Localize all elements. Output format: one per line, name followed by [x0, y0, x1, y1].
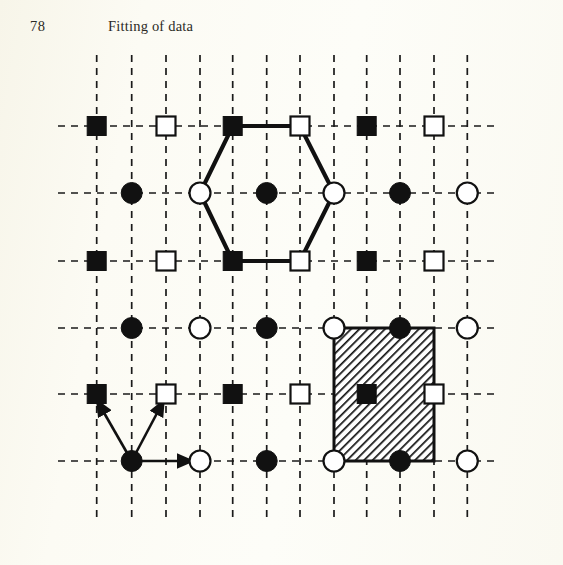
open-circle-r2c4: [190, 183, 211, 204]
filled-circle-r4c10: [390, 318, 411, 339]
unit-cell-center-marker: [358, 386, 375, 403]
filled-circle-r2c10: [390, 183, 411, 204]
open-circle-r4c8: [324, 318, 345, 339]
open-circle-r2c12: [457, 183, 478, 204]
open-circle-r6c4: [190, 451, 211, 472]
open-square-r1c3: [157, 117, 176, 136]
unit-cell-center-square: [358, 386, 375, 403]
filled-square-r3c1: [87, 252, 106, 271]
basis-vector-arrows: [97, 400, 193, 461]
open-square-r1c7: [291, 117, 310, 136]
filled-circle-r2c2: [121, 183, 142, 204]
filled-circle-r6c6: [256, 451, 277, 472]
open-square-r1c11: [425, 117, 444, 136]
filled-circle-r4c2: [121, 318, 142, 339]
open-circle-r6c8: [324, 451, 345, 472]
open-square-r5c7: [291, 385, 310, 404]
open-circle-r6c12: [457, 451, 478, 472]
filled-square-r1c1: [87, 117, 106, 136]
open-square-r3c7: [291, 252, 310, 271]
unit-cell-shaded: [334, 328, 434, 461]
lattice-figure-svg: [0, 0, 563, 565]
open-square-r3c11: [425, 252, 444, 271]
filled-circle-r6c10: [390, 451, 411, 472]
open-circle-r2c8: [324, 183, 345, 204]
open-circle-r4c4: [190, 318, 211, 339]
open-square-r5c3: [157, 385, 176, 404]
filled-square-r1c5: [223, 117, 242, 136]
open-square-r3c3: [157, 252, 176, 271]
filled-square-r5c5: [223, 385, 242, 404]
unit-cell-rect: [334, 328, 434, 461]
filled-circle-r2c6: [256, 183, 277, 204]
lattice-figure: [0, 0, 563, 565]
filled-square-r5c1: [87, 385, 106, 404]
filled-circle-r6c2: [121, 451, 142, 472]
filled-square-r3c5: [223, 252, 242, 271]
book-page: 78 Fitting of data: [0, 0, 563, 565]
filled-square-r3c9: [357, 252, 376, 271]
filled-circle-r4c6: [256, 318, 277, 339]
open-square-r5c11: [425, 385, 444, 404]
filled-square-r1c9: [357, 117, 376, 136]
open-circle-r4c12: [457, 318, 478, 339]
